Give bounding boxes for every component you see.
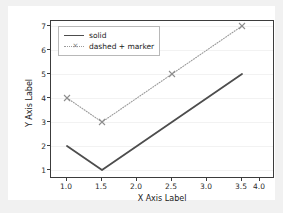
legend-swatch-solid-line xyxy=(63,31,85,41)
legend-entry-dashed-marker[interactable]: ✕ dashed + marker xyxy=(63,41,154,52)
x-marker-icon: ✕ xyxy=(72,43,79,50)
x-tick-label: 1.5 xyxy=(89,183,113,191)
y-tick-label: 2 xyxy=(34,143,46,151)
y-tick-label: 5 xyxy=(34,71,46,79)
y-tick-label: 7 xyxy=(34,23,46,31)
x-tick-label: 3.0 xyxy=(194,183,218,191)
figure-canvas: 7 6 5 4 3 2 1 xyxy=(0,0,283,213)
x-tick-label: 2.5 xyxy=(159,183,183,191)
y-axis-label: Y Axis Label xyxy=(26,63,34,143)
x-tick-mark xyxy=(101,178,102,181)
figure-card: 7 6 5 4 3 2 1 xyxy=(8,6,275,200)
x-tick-mark xyxy=(171,178,172,181)
x-tick-label: 2.0 xyxy=(124,183,148,191)
y-tick-label: 6 xyxy=(34,47,46,55)
plot-inner: solid ✕ dashed + marker xyxy=(51,21,273,177)
y-tick-label: 1 xyxy=(34,167,46,175)
x-axis-label: X Axis Label xyxy=(50,195,274,203)
legend-entry-solid[interactable]: solid xyxy=(63,30,154,41)
x-tick-label: 4.0 xyxy=(247,183,271,191)
x-tick-mark xyxy=(241,178,242,181)
legend-label: solid xyxy=(89,32,106,40)
x-tick-mark xyxy=(206,178,207,181)
x-tick-mark xyxy=(136,178,137,181)
y-tick-label: 4 xyxy=(34,95,46,103)
legend[interactable]: solid ✕ dashed + marker xyxy=(58,26,160,56)
x-tick-label: 1.0 xyxy=(54,183,78,191)
series-solid-line xyxy=(67,74,242,170)
plot-area: solid ✕ dashed + marker xyxy=(50,20,274,178)
legend-label: dashed + marker xyxy=(89,43,154,51)
x-tick-mark xyxy=(259,178,260,181)
y-tick-label: 3 xyxy=(34,119,46,127)
legend-swatch-dashed-line: ✕ xyxy=(63,42,85,52)
x-tick-mark xyxy=(66,178,67,181)
